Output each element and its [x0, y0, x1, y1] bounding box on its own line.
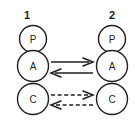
column-2-node-group: P A C	[97, 26, 128, 115]
arrow-a-reverse[interactable]	[51, 69, 93, 77]
column-1-label: 1	[24, 9, 30, 21]
node-label-p-col1: P	[30, 34, 37, 45]
node-label-p-col2: P	[109, 34, 116, 45]
diagram-canvas: 1 2 P A C P A C	[0, 0, 135, 128]
arrow-c-reverse[interactable]	[51, 101, 93, 109]
column-1-node-group: P A C	[18, 26, 49, 115]
column-2-label: 2	[109, 9, 115, 21]
node-label-a-col2: A	[109, 61, 116, 72]
arrow-a-forward[interactable]	[51, 58, 93, 66]
node-label-c-col2: C	[108, 94, 115, 105]
arrow-c-forward[interactable]	[51, 91, 93, 99]
node-label-c-col1: C	[29, 94, 36, 105]
node-label-a-col1: A	[30, 61, 37, 72]
diagram-svg: 1 2 P A C P A C	[0, 0, 135, 128]
